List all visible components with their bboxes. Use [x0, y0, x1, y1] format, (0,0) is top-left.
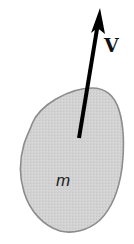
mass-body-shape: [21, 88, 124, 232]
mass-label: m: [56, 172, 70, 189]
velocity-label: V: [104, 36, 119, 55]
